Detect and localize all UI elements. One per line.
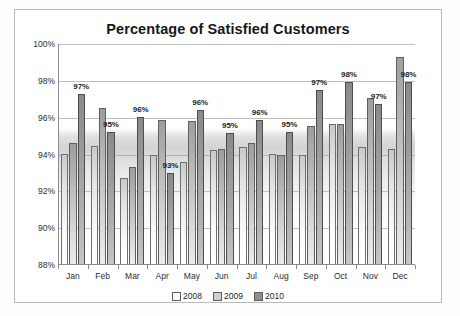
legend-swatch-icon bbox=[213, 292, 222, 301]
bar-2009-May bbox=[188, 121, 195, 265]
bar-2009-Jul bbox=[248, 143, 255, 265]
chart-frame: Percentage of Satisfied Customers 88%90%… bbox=[14, 9, 442, 303]
bar-2010-Apr bbox=[167, 173, 174, 265]
bar-2008-Dec bbox=[388, 149, 395, 265]
bar-value-label: 98% bbox=[341, 70, 357, 79]
y-axis-line bbox=[58, 44, 59, 265]
bar-2009-Jun bbox=[218, 149, 225, 265]
x-axis-tick bbox=[266, 265, 267, 269]
legend-item-2010[interactable]: 2010 bbox=[254, 291, 284, 301]
bar-value-label: 96% bbox=[133, 105, 149, 114]
bar-value-label: 98% bbox=[400, 70, 416, 79]
x-axis-label-mar: Mar bbox=[125, 271, 140, 281]
x-axis-label-nov: Nov bbox=[363, 271, 378, 281]
x-axis-tick bbox=[385, 265, 386, 269]
plot-area: 97%95%96%93%96%95%96%95%97%98%97%98% bbox=[58, 44, 415, 265]
bar-2010-Sep bbox=[316, 90, 323, 265]
bar-value-label: 95% bbox=[103, 120, 119, 129]
bar-2010-Dec bbox=[405, 82, 412, 265]
y-axis-tick-label: 88% bbox=[17, 260, 55, 270]
bar-2008-Nov bbox=[358, 147, 365, 265]
bar-value-label: 97% bbox=[311, 78, 327, 87]
x-axis-label-apr: Apr bbox=[156, 271, 169, 281]
bar-2008-Jan bbox=[61, 154, 68, 265]
x-axis-tick bbox=[88, 265, 89, 269]
bar-2009-Jan bbox=[69, 143, 76, 265]
chart-page: Percentage of Satisfied Customers 88%90%… bbox=[0, 0, 460, 316]
bar-2010-Oct bbox=[345, 82, 352, 265]
bar-2008-Apr bbox=[150, 155, 157, 266]
bar-value-label: 96% bbox=[252, 108, 268, 117]
x-axis-label-may: May bbox=[184, 271, 200, 281]
x-axis-label-oct: Oct bbox=[334, 271, 347, 281]
x-axis-label-jan: Jan bbox=[66, 271, 80, 281]
x-axis-label-dec: Dec bbox=[393, 271, 408, 281]
gridline bbox=[58, 81, 415, 82]
bar-value-label: 97% bbox=[73, 82, 89, 91]
legend-label: 2009 bbox=[224, 291, 243, 301]
legend-label: 2008 bbox=[183, 291, 202, 301]
bar-2010-Jan bbox=[78, 94, 85, 265]
x-axis-tick bbox=[415, 265, 416, 269]
x-axis-tick bbox=[177, 265, 178, 269]
bar-2009-Aug bbox=[277, 155, 284, 265]
bar-2009-Apr bbox=[158, 120, 165, 265]
chart-title: Percentage of Satisfied Customers bbox=[15, 21, 441, 37]
legend-swatch-icon bbox=[172, 292, 181, 301]
bar-2010-Nov bbox=[375, 104, 382, 265]
bar-2010-Jul bbox=[256, 120, 263, 265]
y-axis-tick-label: 98% bbox=[17, 76, 55, 86]
x-axis-tick bbox=[58, 265, 59, 269]
bar-value-label: 95% bbox=[222, 121, 238, 130]
x-axis-tick bbox=[118, 265, 119, 269]
legend-swatch-icon bbox=[254, 292, 263, 301]
x-axis-tick bbox=[326, 265, 327, 269]
bar-2009-Mar bbox=[129, 167, 136, 265]
bar-2008-Jul bbox=[239, 147, 246, 265]
bar-2008-May bbox=[180, 162, 187, 265]
legend-item-2009[interactable]: 2009 bbox=[213, 291, 243, 301]
bar-2009-Dec bbox=[396, 57, 403, 265]
y-axis-tick-label: 100% bbox=[17, 39, 55, 49]
bar-2010-Mar bbox=[137, 117, 144, 265]
bar-2008-Aug bbox=[269, 154, 276, 265]
x-axis-label-jun: Jun bbox=[215, 271, 229, 281]
bar-2010-May bbox=[197, 110, 204, 265]
gridline bbox=[58, 44, 415, 45]
y-axis-tick-label: 94% bbox=[17, 150, 55, 160]
y-axis-tick-label: 96% bbox=[17, 113, 55, 123]
bar-2009-Oct bbox=[337, 124, 344, 265]
x-axis-tick bbox=[296, 265, 297, 269]
bar-2010-Jun bbox=[226, 133, 233, 265]
bar-2009-Feb bbox=[99, 108, 106, 265]
bar-2010-Feb bbox=[107, 132, 114, 265]
bar-2008-Jun bbox=[210, 150, 217, 265]
x-axis-label-feb: Feb bbox=[95, 271, 110, 281]
y-axis-tick-label: 92% bbox=[17, 186, 55, 196]
bar-2009-Sep bbox=[307, 126, 314, 265]
chart-legend: 200820092010 bbox=[15, 291, 441, 301]
gridline bbox=[58, 118, 415, 119]
x-axis-tick bbox=[237, 265, 238, 269]
x-axis-tick bbox=[147, 265, 148, 269]
bar-2008-Feb bbox=[91, 146, 98, 265]
bar-value-label: 93% bbox=[162, 161, 178, 170]
bar-2008-Mar bbox=[120, 178, 127, 265]
bar-2009-Nov bbox=[367, 98, 374, 265]
bar-value-label: 97% bbox=[371, 92, 387, 101]
x-axis-tick bbox=[207, 265, 208, 269]
legend-label: 2010 bbox=[265, 291, 284, 301]
x-axis-tick bbox=[356, 265, 357, 269]
bar-2008-Oct bbox=[329, 124, 336, 265]
bar-value-label: 96% bbox=[192, 98, 208, 107]
legend-item-2008[interactable]: 2008 bbox=[172, 291, 202, 301]
x-axis-label-aug: Aug bbox=[274, 271, 289, 281]
x-axis-label-sep: Sep bbox=[303, 271, 318, 281]
bar-value-label: 95% bbox=[281, 120, 297, 129]
bar-2010-Aug bbox=[286, 132, 293, 265]
x-axis-label-jul: Jul bbox=[246, 271, 257, 281]
y-axis-tick-label: 90% bbox=[17, 223, 55, 233]
bar-2008-Sep bbox=[299, 155, 306, 265]
